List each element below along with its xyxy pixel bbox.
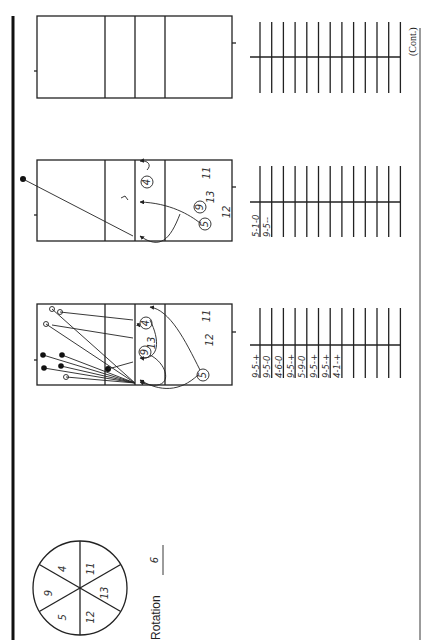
court-2-block-mark [121,196,128,200]
court-1-annotation: 11 [201,310,212,323]
tally-entry: 9-5-+ [251,354,261,378]
court-1-filled-dot [59,352,65,358]
court-3-tally-grid [250,22,401,93]
tally-entry: 5-1-0 [251,215,261,237]
rotation-wheel-position: 13 [99,587,110,600]
court-1-attack-fan [43,309,135,383]
court-1-pass-arc-5 [140,375,198,388]
court-2-pass-arc-5 [140,214,180,242]
tally-entry: 4-1-+ [332,354,342,378]
rotation-wheel-position: 5 [57,614,68,620]
court-1-annotation: 12 [204,334,215,347]
rotation-wheel-position: 9 [43,590,54,596]
court-2: 4 9 5 11 13 12 [20,160,236,242]
tally-entry: 9-5-- [262,217,272,237]
court-1-filled-dot [40,352,46,358]
court-2-annotation: 11 [201,167,212,180]
court-1-annotation: 13 [146,337,157,350]
tally-entry: 9-5-+ [321,354,331,378]
court-2-player-9-label: 9 [194,204,205,210]
court-1-player-4-label: 4 [140,320,151,326]
tally-entry: 5-9-0 [297,356,307,378]
court-1-tally-grid: 9-5-+9-5-04-6-09-5-+5-9-09-5-+9-5-+4-1-+ [250,308,401,378]
rotation-wheel: 411131259 [33,541,127,635]
court-2-attack-path [23,179,133,236]
court-2-player-5-label: 5 [199,221,210,227]
rotation-wheel-position: 11 [85,562,96,575]
court-2-pass-arc-9 [140,202,200,223]
court-2-tally-grid: 5-1-09-5-- [250,166,401,237]
tally-entry: 9-5-+ [309,354,319,378]
court-1-tip-line [108,362,133,369]
tally-entry: 9-5-+ [286,354,296,378]
court-2-annotation: 13 [205,191,216,204]
tally-entry: 9-5-0 [262,356,272,378]
court-1: 4 9 5 11 12 13 [34,304,236,388]
court-3 [34,16,236,98]
court-2-pass-arc-4 [140,161,149,170]
court-1-filled-dot [41,365,47,371]
rotation-number: 6 [149,557,160,563]
court-2-annotation: 12 [221,206,232,219]
rotation-wheel-position: 4 [57,566,68,572]
continued-label: (Cont.) [407,27,419,56]
court-1-player-5-label: 5 [197,372,208,378]
rotation-wheel-position: 12 [85,611,96,624]
court-2-player-4-label: 4 [141,179,152,185]
tally-entry: 4-6-0 [274,356,284,378]
court-1-filled-dot [58,363,64,369]
scouting-sheet: 4 9 5 11 13 12 [0,0,424,640]
court-1-pass-arc-9 [140,355,166,385]
rotation-label: Rotation [149,595,163,640]
